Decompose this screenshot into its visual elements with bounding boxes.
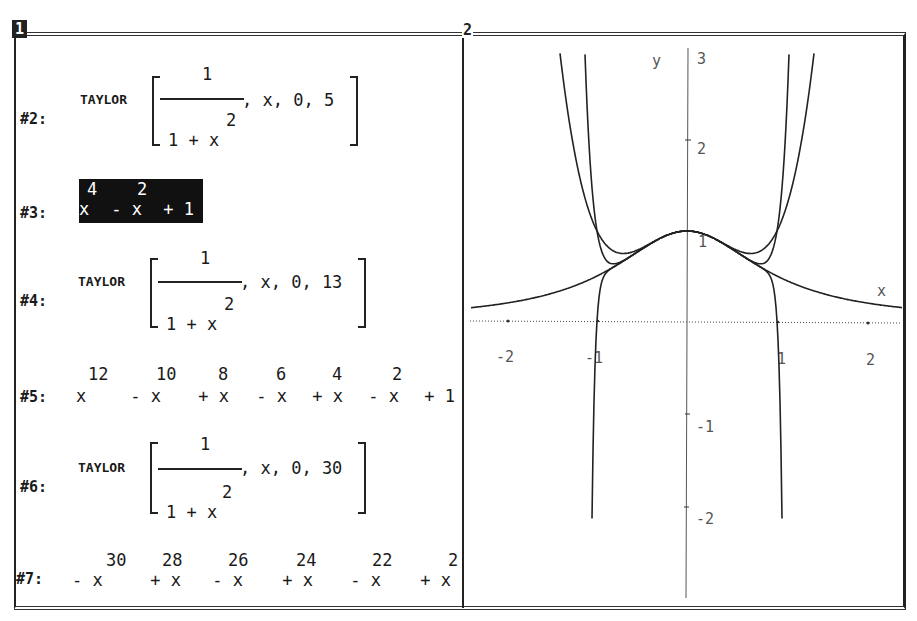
y-tick-neg1: -1 bbox=[696, 418, 714, 436]
taylor-args: , x, 0, 30 bbox=[240, 458, 342, 478]
y-tick-2: 2 bbox=[697, 140, 706, 158]
denominator: 1 + x bbox=[166, 314, 217, 334]
y-axis-label: y bbox=[652, 52, 661, 70]
taylor-function: TAYLOR bbox=[78, 460, 125, 475]
y-tick-neg2: -2 bbox=[696, 510, 714, 528]
numerator: 1 bbox=[202, 64, 212, 84]
y-tick-3: 3 bbox=[697, 50, 706, 68]
left-bracket bbox=[150, 442, 158, 514]
taylor-args: , x, 0, 13 bbox=[240, 272, 342, 292]
denominator: 1 + x bbox=[168, 130, 219, 150]
x-tick-neg2: -2 bbox=[496, 348, 514, 366]
y-axis bbox=[686, 48, 688, 598]
x-tick-neg1: -1 bbox=[585, 349, 603, 367]
right-bracket bbox=[358, 442, 366, 514]
plot-window[interactable]: y x 3 2 1 -1 -2 -2 -1 1 2 bbox=[464, 36, 904, 608]
right-bracket bbox=[358, 258, 366, 328]
fraction-bar bbox=[158, 468, 242, 470]
denominator: 1 + x bbox=[166, 502, 217, 522]
selected-expression[interactable]: 4 2 x - x + 1 bbox=[79, 179, 203, 223]
numerator: 1 bbox=[200, 434, 210, 454]
window-tab-1[interactable]: 1 bbox=[12, 20, 27, 38]
plot-curve-1 bbox=[471, 231, 902, 308]
expression-label: #2: bbox=[20, 110, 47, 128]
axis-ticks bbox=[507, 140, 870, 507]
taylor-function: TAYLOR bbox=[80, 92, 127, 107]
y-tick-1: 1 bbox=[698, 233, 707, 251]
expression-label: #3: bbox=[20, 204, 47, 222]
exponent: 2 bbox=[226, 110, 236, 130]
right-bracket bbox=[350, 76, 358, 146]
left-bracket bbox=[150, 258, 158, 328]
x-tick-2: 2 bbox=[866, 351, 875, 369]
expression-label: #6: bbox=[20, 478, 47, 496]
taylor-function: TAYLOR bbox=[78, 274, 125, 289]
exponent: 2 bbox=[224, 294, 234, 314]
fraction-bar bbox=[160, 98, 244, 100]
fraction-bar bbox=[158, 281, 242, 283]
algebra-window[interactable]: #2: TAYLOR 1 2 1 + x , x, 0, 5 #3: 4 2 x… bbox=[16, 38, 462, 606]
expression-label: #7: bbox=[16, 570, 43, 588]
x-axis bbox=[470, 321, 902, 323]
expression-label: #5: bbox=[20, 388, 47, 406]
numerator: 1 bbox=[200, 248, 210, 268]
exponent: 2 bbox=[222, 482, 232, 502]
expression-label: #4: bbox=[20, 292, 47, 310]
x-axis-label: x bbox=[877, 282, 886, 300]
left-bracket bbox=[152, 76, 160, 146]
taylor-args: , x, 0, 5 bbox=[242, 90, 334, 110]
